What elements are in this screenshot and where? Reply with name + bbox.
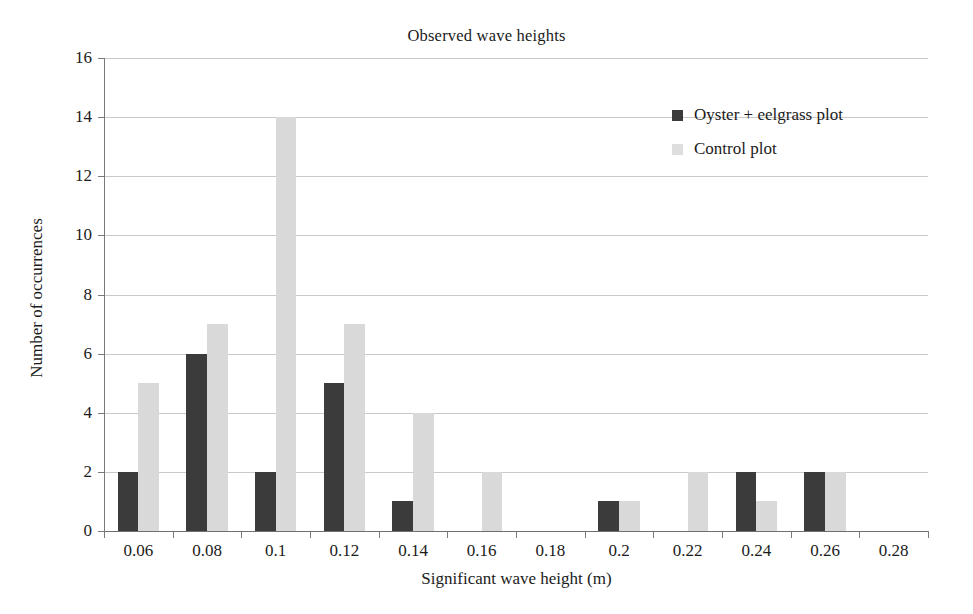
x-axis-tick-label: 0.28	[879, 541, 909, 561]
legend-swatch-oyster-icon	[672, 110, 683, 121]
bar	[392, 501, 413, 531]
legend-label: Oyster + eelgrass plot	[694, 105, 843, 125]
bar	[413, 413, 434, 531]
x-axis-tick-mark	[653, 531, 654, 538]
chart-legend: Oyster + eelgrass plotControl plot	[672, 98, 952, 166]
bar	[344, 324, 365, 531]
bar	[825, 472, 846, 531]
y-axis-tick-mark	[98, 354, 105, 355]
x-axis-tick-label: 0.06	[123, 541, 153, 561]
y-axis-tick-mark	[98, 531, 105, 532]
x-axis-tick-label: 0.12	[329, 541, 359, 561]
x-axis-tick-label: 0.22	[673, 541, 703, 561]
y-axis-tick-label: 4	[84, 403, 93, 423]
bar	[619, 501, 640, 531]
legend-swatch-control-icon	[672, 144, 683, 155]
y-axis-tick-label: 10	[75, 225, 92, 245]
x-axis-tick-marks	[104, 531, 929, 539]
x-axis-title: Significant wave height (m)	[104, 569, 929, 589]
x-axis-tick-label: 0.08	[192, 541, 222, 561]
bar	[138, 383, 159, 531]
y-axis-tick-label: 0	[84, 521, 93, 541]
y-axis-tick-mark	[98, 58, 105, 59]
x-axis-tick-mark	[859, 531, 860, 538]
bar	[276, 117, 297, 531]
x-axis-tick-mark	[585, 531, 586, 538]
bar-group	[173, 58, 242, 531]
y-axis-tick-mark	[98, 413, 105, 414]
bar	[255, 472, 276, 531]
x-axis-tick-mark	[104, 531, 105, 538]
y-axis-tick-label: 14	[75, 107, 92, 127]
bar	[324, 383, 345, 531]
bar	[186, 354, 207, 531]
bar	[756, 501, 777, 531]
y-axis-title: Number of occurrences	[27, 98, 47, 498]
chart-figure: Observed wave heights 0246810121416 Numb…	[0, 0, 973, 614]
bar	[118, 472, 139, 531]
x-axis-tick-mark	[516, 531, 517, 538]
bar-group	[516, 58, 585, 531]
y-axis-tick-label: 8	[84, 285, 93, 305]
legend-item: Oyster + eelgrass plot	[672, 98, 952, 132]
bar-group	[379, 58, 448, 531]
y-axis-tick-mark	[98, 472, 105, 473]
y-axis-tick-mark	[98, 295, 105, 296]
x-axis-tick-label: 0.26	[810, 541, 840, 561]
chart-title: Observed wave heights	[0, 26, 973, 46]
y-axis-tick-label: 12	[75, 166, 92, 186]
bar	[688, 472, 709, 531]
bar	[207, 324, 228, 531]
bar-group	[585, 58, 654, 531]
x-axis-tick-mark	[173, 531, 174, 538]
x-axis-tick-label: 0.1	[265, 541, 286, 561]
bar-group	[310, 58, 379, 531]
x-axis-tick-mark	[241, 531, 242, 538]
bar-group	[447, 58, 516, 531]
bar	[804, 472, 825, 531]
bar	[482, 472, 503, 531]
y-axis-tick-labels: 0246810121416	[52, 58, 92, 531]
y-axis-tick-label: 6	[84, 344, 93, 364]
x-axis-tick-label: 0.14	[398, 541, 428, 561]
bar	[598, 501, 619, 531]
bar-group	[241, 58, 310, 531]
legend-label: Control plot	[694, 139, 777, 159]
y-axis-tick-mark	[98, 235, 105, 236]
y-axis-tick-mark	[98, 117, 105, 118]
y-axis-tick-label: 16	[75, 48, 92, 68]
x-axis-tick-label: 0.16	[467, 541, 497, 561]
x-axis-tick-label: 0.18	[535, 541, 565, 561]
bar	[736, 472, 757, 531]
x-axis-tick-mark	[379, 531, 380, 538]
x-axis-tick-label: 0.2	[608, 541, 629, 561]
x-axis-tick-mark	[722, 531, 723, 538]
legend-item: Control plot	[672, 132, 952, 166]
bar-group	[104, 58, 173, 531]
x-axis-tick-mark	[791, 531, 792, 538]
x-axis-tick-mark	[310, 531, 311, 538]
y-axis-tick-label: 2	[84, 462, 93, 482]
x-axis-tick-mark	[928, 531, 929, 538]
x-axis-tick-label: 0.24	[741, 541, 771, 561]
x-axis-tick-mark	[447, 531, 448, 538]
y-axis-tick-mark	[98, 176, 105, 177]
x-axis-tick-labels: 0.060.080.10.120.140.160.180.20.220.240.…	[104, 541, 929, 569]
